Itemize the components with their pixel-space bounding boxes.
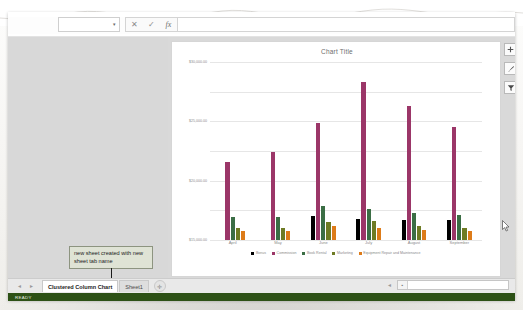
chart-styles-button[interactable] [504,62,515,75]
bar[interactable] [447,220,451,240]
bar[interactable] [271,152,275,240]
bar[interactable] [462,228,466,240]
bar[interactable] [457,215,461,241]
bar-group [266,62,291,240]
formula-input[interactable] [177,17,515,32]
worksheet-area[interactable]: Chart Title $30,000.00$25,000.00$20,000.… [8,36,515,279]
bar[interactable] [231,217,235,240]
bar[interactable] [332,226,336,240]
worksheet-left-region[interactable] [8,37,168,279]
chart-filters-button[interactable] [504,81,515,94]
bar[interactable] [372,221,376,240]
bar[interactable] [316,123,320,240]
scrollbar-left-arrow-icon[interactable]: ▪ [398,281,408,289]
legend-swatch [332,252,335,255]
bar[interactable] [422,230,426,240]
brush-icon [507,65,515,73]
status-text: READY [15,295,32,300]
legend-swatch [251,252,254,255]
sheet-nav-next-icon[interactable]: ► [29,283,34,289]
bar-group [356,62,381,240]
bar[interactable] [407,106,411,240]
legend-item[interactable]: Commission [272,251,296,255]
horizontal-scrollbar[interactable]: ▪ [397,280,509,290]
formula-bar: ▾ ✕ ✓ fx [8,17,515,34]
bar[interactable] [311,216,315,240]
bar-group [402,62,427,240]
bar[interactable] [412,213,416,240]
bar[interactable] [321,206,325,240]
callout-box: new sheet created with new sheet tab nam… [69,246,153,269]
chart-side-buttons [504,43,515,94]
legend-item[interactable]: Equipment Repair and Maintenance [359,251,421,255]
excel-window: ▾ ✕ ✓ fx Chart Title $30,000.00$25,000.0… [8,12,515,300]
scanned-page-backdrop: ▾ ✕ ✓ fx Chart Title $30,000.00$25,000.0… [0,0,523,310]
bar-group [311,62,336,240]
legend-label: Book Rental [307,251,327,255]
sheet-nav-previous-icon[interactable]: ◄ [17,283,22,289]
bar[interactable] [402,220,406,240]
chart-plot-area: $30,000.00$25,000.00$20,000.00$15,000.00… [210,62,482,240]
legend-swatch [302,252,305,255]
legend-swatch [272,252,275,255]
insert-function-icon[interactable]: fx [160,18,177,31]
chart-legend[interactable]: BonusCommissionBook RentalMarketingEquip… [172,251,500,255]
funnel-icon [507,84,515,92]
plus-icon [507,46,514,53]
cancel-icon[interactable]: ✕ [126,18,143,31]
bar[interactable] [286,231,290,240]
status-bar: READY [8,293,515,301]
chart-object[interactable]: Chart Title $30,000.00$25,000.00$20,000.… [171,41,501,277]
category-axis-label: April [210,240,255,250]
enter-icon[interactable]: ✓ [143,18,160,31]
scrollbar-thumb[interactable] [408,281,508,289]
y-axis-tick-label: $25,000.00 [189,119,207,123]
legend-item[interactable]: Marketing [332,251,352,255]
sheet-tab[interactable]: Clustered Column Chart [42,280,118,292]
category-axis-label: May [255,240,300,250]
formula-bar-buttons: ✕ ✓ fx [125,17,177,32]
bar[interactable] [225,162,229,240]
bar[interactable] [281,228,285,240]
y-axis-tick-label: $30,000.00 [189,60,207,64]
bar[interactable] [326,222,330,240]
legend-item[interactable]: Book Rental [302,251,326,255]
bar[interactable] [377,228,381,240]
bar[interactable] [367,209,371,240]
bar[interactable] [361,82,365,240]
bar[interactable] [241,231,245,240]
sheet-tab[interactable]: Sheet1 [119,280,149,292]
category-axis: AprilMayJuneJulyAugustSeptember [210,240,482,250]
legend-label: Equipment Repair and Maintenance [363,251,420,255]
category-axis-label: June [301,240,346,250]
legend-swatch [359,252,362,255]
sheet-nav-arrows: ◄ ► [17,283,34,289]
chart-title[interactable]: Chart Title [172,48,502,55]
bar-group [447,62,472,240]
bar[interactable] [276,217,280,240]
sheet-tabs: Clustered Column ChartSheet1 [42,280,150,292]
name-box[interactable]: ▾ [58,17,120,32]
new-sheet-button[interactable]: ✛ [154,280,166,292]
scroll-left-button[interactable]: ◄ [386,280,393,290]
category-axis-label: July [346,240,391,250]
chevron-down-icon: ▾ [113,22,116,27]
bar[interactable] [417,226,421,240]
category-axis-label: August [391,240,436,250]
bar[interactable] [452,127,456,240]
category-axis-label: September [437,240,482,250]
legend-label: Marketing [337,251,353,255]
bar[interactable] [356,219,360,240]
y-axis-tick-label: $20,000.00 [189,179,207,183]
legend-item[interactable]: Bonus [251,251,266,255]
chart-bars [210,62,482,240]
y-axis-tick-label: $15,000.00 [189,238,207,242]
bar[interactable] [236,228,240,240]
mouse-cursor-icon [502,220,510,232]
legend-label: Commission [277,251,297,255]
bar[interactable] [468,231,472,240]
chart-elements-button[interactable] [504,43,515,56]
legend-label: Bonus [256,251,266,255]
bar-group [220,62,245,240]
new-sheet-icon: ✛ [157,283,162,290]
